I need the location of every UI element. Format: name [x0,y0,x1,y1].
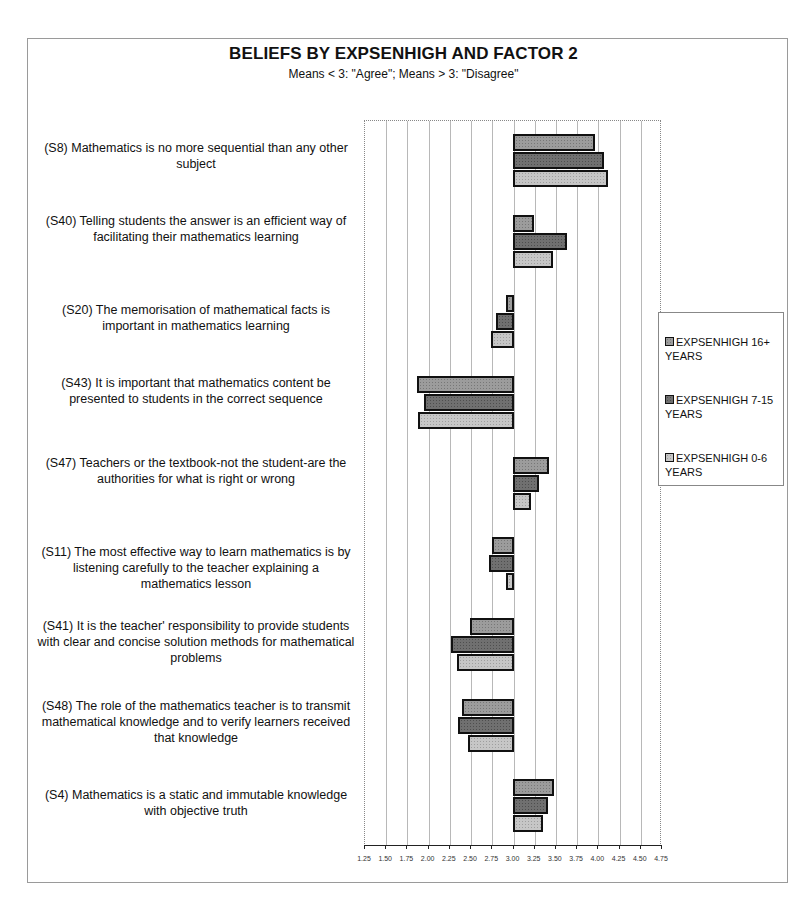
category-label-s48: (S48) The role of the mathematics teache… [36,698,356,746]
x-tick [619,845,620,849]
gridline [620,121,621,845]
legend-label: EXPSENHIGH 0-6 YEARS [665,452,767,478]
bar-s8-series-1 [513,152,604,169]
category-label-s47: (S47) Teachers or the textbook-not the s… [36,455,356,487]
category-label-s41: (S41) It is the teacher' responsibility … [36,618,356,666]
bar-s41-series-0 [470,618,514,635]
bar-s43-series-2 [418,412,514,429]
gridline [407,121,408,845]
x-tick [597,845,598,849]
category-label-s40: (S40) Telling students the answer is an … [36,213,356,245]
category-label-s20: (S20) The memorisation of mathematical f… [36,302,356,334]
legend-swatch-7-15 [665,395,674,404]
bar-s20-series-1 [496,313,515,330]
legend-label: EXPSENHIGH 16+ YEARS [665,336,770,362]
bar-s41-series-1 [451,636,515,653]
gridline [386,121,387,845]
chart-title: BELIEFS BY EXPSENHIGH AND FACTOR 2 [0,44,807,64]
bar-s20-series-2 [491,331,514,348]
x-tick [640,845,641,849]
x-tick [406,845,407,849]
x-tick [576,845,577,849]
gridline [577,121,578,845]
bar-s43-series-0 [417,376,514,393]
bar-s4-series-1 [513,797,548,814]
x-tick-label: 4.75 [646,855,676,862]
legend-swatch-0-6 [665,453,674,462]
legend-item-7-15: EXPSENHIGH 7-15 YEARS [665,393,783,421]
gridline [450,121,451,845]
bar-s48-series-0 [462,699,515,716]
bar-s4-series-0 [513,779,554,796]
gridline [429,121,430,845]
category-label-s4: (S4) Mathematics is a static and immutab… [36,787,356,819]
bar-s47-series-2 [513,493,532,510]
x-tick [449,845,450,849]
gridline [598,121,599,845]
bar-s47-series-0 [513,457,550,474]
bar-s40-series-1 [513,233,568,250]
gridline [556,121,557,845]
plot-area [364,120,661,846]
bar-s8-series-0 [513,134,596,151]
bar-s43-series-1 [424,394,514,411]
legend-swatch-16-plus [665,337,674,346]
gridline [641,121,642,845]
x-tick [385,845,386,849]
legend: EXPSENHIGH 16+ YEARS EXPSENHIGH 7-15 YEA… [658,312,784,486]
x-tick [661,845,662,849]
category-label-s8: (S8) Mathematics is no more sequential t… [36,140,356,172]
legend-item-16-plus: EXPSENHIGH 16+ YEARS [665,335,783,363]
bar-s11-series-1 [489,555,515,572]
x-tick [555,845,556,849]
x-tick [534,845,535,849]
bar-s4-series-2 [513,815,544,832]
x-tick [491,845,492,849]
bar-s40-series-2 [513,251,553,268]
category-label-s43: (S43) It is important that mathematics c… [36,375,356,407]
x-tick [470,845,471,849]
bar-s48-series-1 [458,717,514,734]
bar-s47-series-1 [513,475,540,492]
bar-s40-series-0 [513,215,535,232]
bar-s20-series-0 [506,295,515,312]
x-tick [428,845,429,849]
bar-s41-series-2 [457,654,514,671]
x-tick [513,845,514,849]
bar-s8-series-2 [513,170,608,187]
category-label-s11: (S11) The most effective way to learn ma… [36,544,356,592]
legend-item-0-6: EXPSENHIGH 0-6 YEARS [665,451,783,479]
chart-subtitle: Means < 3: "Agree"; Means > 3: "Disagree… [0,67,807,81]
bar-s11-series-0 [492,537,514,554]
legend-label: EXPSENHIGH 7-15 YEARS [665,394,773,420]
bar-s11-series-2 [506,573,515,590]
bar-s48-series-2 [468,735,515,752]
x-tick [364,845,365,849]
